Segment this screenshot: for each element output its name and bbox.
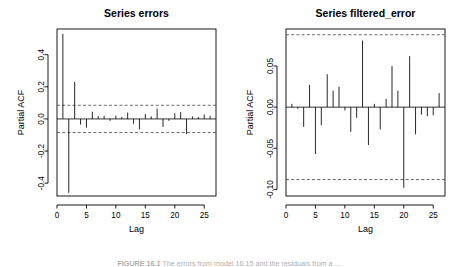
- y-axis-label: Partial ACF: [245, 89, 255, 135]
- x-tick-label: 20: [399, 211, 409, 220]
- x-tick-label: 10: [111, 211, 121, 220]
- panels-row: Series errors0510152025Lag-0.4-0.20.00.2…: [0, 0, 458, 250]
- y-tick-label: -0.2: [37, 144, 46, 159]
- pacf-spikes: [292, 41, 439, 188]
- pacf-spikes: [63, 34, 210, 193]
- x-tick-label: 0: [55, 211, 60, 220]
- plot-frame: [57, 29, 216, 196]
- chart-title: Series filtered_error: [316, 7, 416, 19]
- x-tick-label: 0: [284, 211, 289, 220]
- x-tick-label: 5: [84, 211, 89, 220]
- y-tick-label: 0.00: [266, 99, 275, 115]
- x-tick-label: 15: [370, 211, 380, 220]
- figure-caption-row: FIGURE 16.1 The errors from model 16.15 …: [0, 250, 458, 267]
- x-axis-label: Lag: [358, 224, 373, 234]
- figure-caption-text: The errors from model 16.15 and the resi…: [162, 259, 340, 267]
- y-tick-label: 0.0: [37, 113, 46, 125]
- y-tick-label: -0.4: [37, 176, 46, 191]
- x-axis-label: Lag: [129, 224, 144, 234]
- y-tick-label: -0.05: [266, 139, 275, 158]
- pacf-panel-filtered-error: Series filtered_error0510152025Lag-0.10-…: [229, 0, 458, 250]
- pacf-chart-errors: Series errors0510152025Lag-0.4-0.20.00.2…: [0, 0, 229, 250]
- pacf-chart-filtered-error: Series filtered_error0510152025Lag-0.10-…: [229, 0, 458, 250]
- x-tick-label: 10: [340, 211, 350, 220]
- x-tick-label: 5: [313, 211, 318, 220]
- y-tick-label: 0.2: [37, 81, 46, 93]
- y-tick-label: 0.05: [266, 58, 275, 74]
- x-tick-label: 25: [200, 211, 210, 220]
- x-tick-label: 25: [429, 211, 439, 220]
- x-tick-label: 15: [141, 211, 151, 220]
- x-tick-label: 20: [170, 211, 180, 220]
- y-axis-label: Partial ACF: [16, 89, 26, 135]
- y-tick-label: 0.4: [37, 49, 46, 61]
- figure-caption-prefix: FIGURE 16.1: [117, 259, 160, 267]
- pacf-panel-errors: Series errors0510152025Lag-0.4-0.20.00.2…: [0, 0, 229, 250]
- chart-title: Series errors: [104, 7, 169, 19]
- y-tick-label: -0.10: [266, 180, 275, 199]
- figure-container: Series errors0510152025Lag-0.4-0.20.00.2…: [0, 0, 458, 267]
- figure-caption: FIGURE 16.1 The errors from model 16.15 …: [117, 259, 340, 267]
